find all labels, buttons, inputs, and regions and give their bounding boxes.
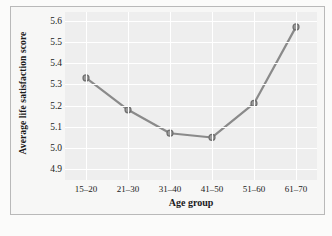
x-tick-label: 15–20 bbox=[75, 184, 98, 194]
gridline-horizontal bbox=[65, 148, 317, 149]
y-tick-label: 5.2 bbox=[36, 101, 62, 111]
gridline-horizontal bbox=[65, 21, 317, 22]
y-tick-label: 5.3 bbox=[36, 79, 62, 89]
series-line bbox=[86, 27, 296, 138]
gridline-horizontal bbox=[65, 63, 317, 64]
gridline-vertical bbox=[296, 12, 297, 180]
y-tick-label: 5.0 bbox=[36, 143, 62, 153]
line-series bbox=[65, 12, 317, 180]
gridline-horizontal bbox=[65, 84, 317, 85]
y-tick-label: 4.9 bbox=[36, 164, 62, 174]
x-axis-label: Age group bbox=[65, 197, 317, 208]
gridline-vertical bbox=[86, 12, 87, 180]
y-tick-label: 5.5 bbox=[36, 37, 62, 47]
gridline-horizontal bbox=[65, 42, 317, 43]
figure: Average life satisfaction score 4.95.05.… bbox=[0, 0, 332, 236]
gridline-vertical bbox=[170, 12, 171, 180]
x-tick-label: 41–50 bbox=[201, 184, 224, 194]
x-tick-label: 31–40 bbox=[159, 184, 182, 194]
y-axis-tick-labels: 4.95.05.15.25.35.45.55.6 bbox=[36, 0, 62, 236]
y-tick-label: 5.6 bbox=[36, 16, 62, 26]
x-tick-label: 51–60 bbox=[243, 184, 266, 194]
x-tick-label: 21–30 bbox=[117, 184, 140, 194]
gridline-vertical bbox=[254, 12, 255, 180]
gridline-horizontal bbox=[65, 169, 317, 170]
gridline-vertical bbox=[128, 12, 129, 180]
gridline-horizontal bbox=[65, 127, 317, 128]
x-tick-label: 61–70 bbox=[285, 184, 308, 194]
gridline-vertical bbox=[212, 12, 213, 180]
y-axis-label: Average life satisfaction score bbox=[18, 18, 28, 168]
plot-area bbox=[65, 12, 317, 180]
y-tick-label: 5.4 bbox=[36, 58, 62, 68]
x-axis-tick-labels: 15–2021–3031–4041–5051–6061–70 bbox=[65, 184, 317, 198]
y-tick-label: 5.1 bbox=[36, 122, 62, 132]
gridline-horizontal bbox=[65, 106, 317, 107]
